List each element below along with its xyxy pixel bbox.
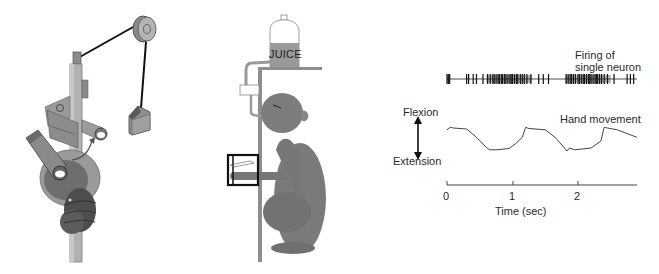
hand-movement-trace	[447, 127, 637, 151]
cable-icon	[78, 22, 142, 58]
burst-region	[486, 75, 532, 83]
manipulandum-drawing	[0, 0, 200, 274]
burst-region	[447, 75, 450, 83]
burst-region	[565, 75, 611, 83]
neuron-trace-panel: Firing of single neuron Hand movement Fl…	[380, 0, 659, 274]
apparatus-illustration	[0, 0, 200, 274]
monkey-icon	[230, 93, 326, 254]
double-arrow-icon	[414, 116, 422, 160]
trace-chart	[380, 0, 659, 274]
monkey-drawing	[200, 0, 380, 274]
pulley-icon	[133, 16, 156, 42]
weight-icon	[129, 106, 150, 135]
monkey-illustration: JUICE	[200, 0, 380, 274]
juice-label: JUICE	[269, 48, 302, 60]
